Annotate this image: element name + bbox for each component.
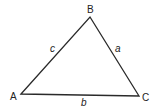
vertex-label-c: C (142, 92, 149, 103)
triangle-shape (21, 17, 139, 96)
side-label-a: a (115, 43, 121, 54)
side-label-b: b (81, 97, 87, 108)
vertex-label-a: A (10, 91, 17, 102)
vertex-label-b: B (87, 4, 94, 15)
triangle-diagram: A B C c a b (0, 0, 156, 111)
side-label-c: c (50, 43, 55, 54)
